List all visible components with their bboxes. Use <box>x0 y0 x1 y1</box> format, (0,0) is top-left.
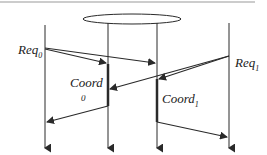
req1-label: Req1 <box>235 56 259 73</box>
req1-to-p1-arrow <box>110 56 229 89</box>
req0-label: Req0 <box>18 43 42 60</box>
coord1-label: Coord1 <box>162 92 199 109</box>
coord0-label: Coord <box>70 76 103 89</box>
req0-to-p2-arrow <box>45 48 155 63</box>
coord0-reply-arrow <box>47 106 108 122</box>
req0-to-p1-arrow <box>45 49 106 63</box>
diagram-canvas <box>0 0 267 155</box>
coord1-reply-arrow <box>157 122 227 137</box>
coord0-subscript: 0 <box>81 94 86 103</box>
shared-resource-ellipse <box>83 14 181 24</box>
